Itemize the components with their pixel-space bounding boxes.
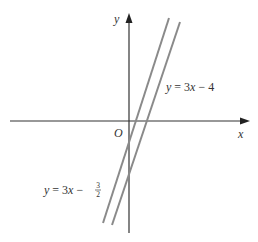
parallel-lines-diagram: y x O y = 3x − 4 y = 3x − 3 2 <box>0 0 258 242</box>
fraction-numerator: 3 <box>96 181 100 190</box>
equation-label-3x-minus-3-halves: y = 3x − <box>43 183 83 197</box>
origin-label: O <box>114 126 123 140</box>
fraction-denominator: 2 <box>96 190 100 199</box>
y-axis-label: y <box>113 12 120 26</box>
x-axis-arrow-icon <box>240 118 250 125</box>
equation-label-3x-minus-4: y = 3x − 4 <box>165 80 214 94</box>
line-3x-minus-4 <box>112 22 180 225</box>
y-axis-arrow-icon <box>126 13 133 23</box>
x-axis-label: x <box>237 127 244 141</box>
